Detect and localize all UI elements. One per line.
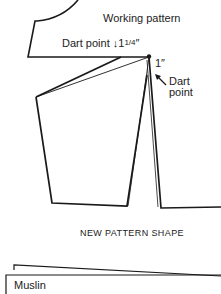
dart-point-arrow-line <box>158 77 166 85</box>
dart-point-right-line2: point <box>169 87 193 98</box>
measure-fraction: 1/4 <box>124 38 135 47</box>
left-panel-outline <box>36 75 147 206</box>
left-panel-thin-edge <box>128 57 149 206</box>
dart-leg-thin <box>36 57 149 97</box>
one-inch-label: 1″ <box>155 57 165 69</box>
working-pattern-label: Working pattern <box>103 12 180 24</box>
right-panel-thin-edge <box>147 60 158 207</box>
dart-point-right-label: Dart point <box>169 76 193 98</box>
muslin-back-sheet <box>14 265 221 276</box>
dart-leg-thick <box>36 57 121 97</box>
measure-unit: ″ <box>136 37 140 49</box>
muslin-label: Muslin <box>14 279 46 291</box>
dart-point-measure-label: Dart point ↓11/4″ <box>62 37 139 49</box>
new-pattern-shape-caption: NEW PATTERN SHAPE <box>80 227 184 239</box>
dart-point-text: Dart point <box>62 37 110 49</box>
